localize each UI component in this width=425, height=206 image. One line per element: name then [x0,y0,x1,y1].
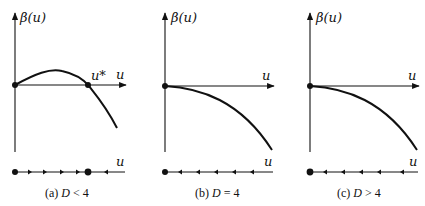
flow-arrow-left [359,170,363,175]
phase-line: u [162,154,273,175]
flow-arrow-right [28,170,32,175]
fixed-point-origin [12,82,18,88]
fixed-point-origin [162,83,168,89]
panel-a: β(u) u u* u (a) D < 4 [12,10,126,200]
flow-arrow-right [43,170,47,175]
flow-arrow-left [104,170,108,175]
flow-arrow-left [232,170,236,175]
x-axis-label: u [408,68,416,83]
y-axis-label: β(u) [19,10,46,25]
figure-canvas: β(u) u u* u (a) D < 4 β(u) u [0,0,425,206]
caption-b: (b) D = 4 [195,186,239,200]
flow-arrow-left [323,170,327,175]
flow-arrow-left [196,170,200,175]
flow-arrow-left [250,170,254,175]
flow-arrow-left [341,170,345,175]
flow-arrow-right [60,170,64,175]
phase-axis-label: u [116,154,124,169]
flow-arrow-left [377,170,381,175]
flow-arrow-left [214,170,218,175]
beta-curve [165,86,272,150]
phase-fixed-point-origin [307,169,314,176]
phase-line: u [12,154,125,175]
phase-line: u [307,154,418,175]
caption-a: (a) D < 4 [45,186,89,200]
y-axis-label: β(u) [170,10,197,25]
phase-fixed-point-origin [162,169,168,175]
x-axis-label: u [116,67,124,82]
phase-fixed-point-ustar [85,169,92,176]
ustar-label: u* [91,68,106,83]
flow-arrow-left [178,170,182,175]
panel-c: β(u) u u (c) D > 4 [307,10,419,200]
flow-arrow-right [76,170,80,175]
fixed-point-origin [307,83,313,89]
x-axis-label: u [262,68,270,83]
phase-axis-label: u [409,154,417,169]
phase-axis-label: u [264,154,272,169]
caption-c: (c) D > 4 [337,186,381,200]
y-axis-label: β(u) [315,10,342,25]
flow-arrow-left [400,170,404,175]
panel-b: β(u) u u (b) D = 4 [162,10,274,200]
beta-curve [310,86,417,150]
phase-fixed-point-origin [12,169,18,175]
